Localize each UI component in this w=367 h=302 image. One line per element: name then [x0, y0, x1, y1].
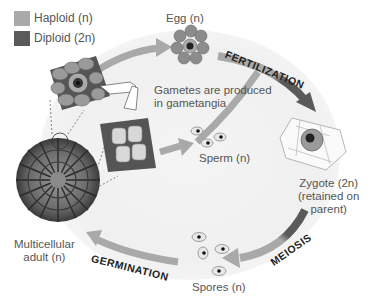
arrow-to-egg	[95, 38, 172, 72]
spores-illustration	[192, 233, 229, 276]
spores-label: Spores (n)	[192, 281, 246, 294]
multicellular-adult-illustration	[16, 133, 100, 222]
gametes-note: Gametes are produced in gametangia	[154, 84, 272, 110]
zygote-label-line1: Zygote (2n)	[298, 177, 359, 190]
meiosis-arrow	[222, 210, 305, 268]
zygote-label-line3: parent)	[298, 203, 359, 216]
antheridium-inset	[100, 118, 156, 172]
gametes-note-line1: Gametes are produced	[154, 84, 272, 97]
gametes-note-line2: in gametangia	[154, 97, 272, 110]
adult-label-line1: Multicellular	[14, 238, 75, 251]
sperm-label: Sperm (n)	[199, 152, 250, 165]
zygote-label: Zygote (2n) (retained on parent)	[298, 177, 359, 216]
zygote-label-line2: (retained on	[298, 190, 359, 203]
adult-label-line2: adult (n)	[14, 251, 75, 264]
egg-illustration	[171, 25, 209, 64]
zygote-illustration	[280, 118, 346, 170]
arrow-to-sperm	[160, 138, 194, 156]
egg-label: Egg (n)	[166, 12, 204, 25]
adult-label: Multicellular adult (n)	[14, 238, 75, 264]
